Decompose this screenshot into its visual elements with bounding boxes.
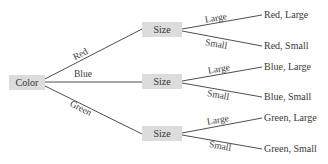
outcome-blue-large: Blue, Large bbox=[264, 61, 311, 73]
outcome-green-large: Green, Large bbox=[264, 112, 317, 124]
size-node-blue: Size bbox=[142, 74, 182, 89]
tree-diagram: Color Size Size Size Red Blue Green Larg… bbox=[0, 0, 328, 164]
outcome-green-small: Green, Small bbox=[264, 143, 317, 155]
edge-label-blue: Blue bbox=[74, 69, 92, 80]
size-node-green: Size bbox=[142, 126, 182, 141]
root-node-color: Color bbox=[9, 75, 45, 90]
size-node-red: Size bbox=[142, 22, 182, 37]
outcome-blue-small: Blue, Small bbox=[264, 91, 311, 103]
outcome-red-large: Red, Large bbox=[264, 9, 308, 21]
outcome-red-small: Red, Small bbox=[264, 40, 308, 52]
